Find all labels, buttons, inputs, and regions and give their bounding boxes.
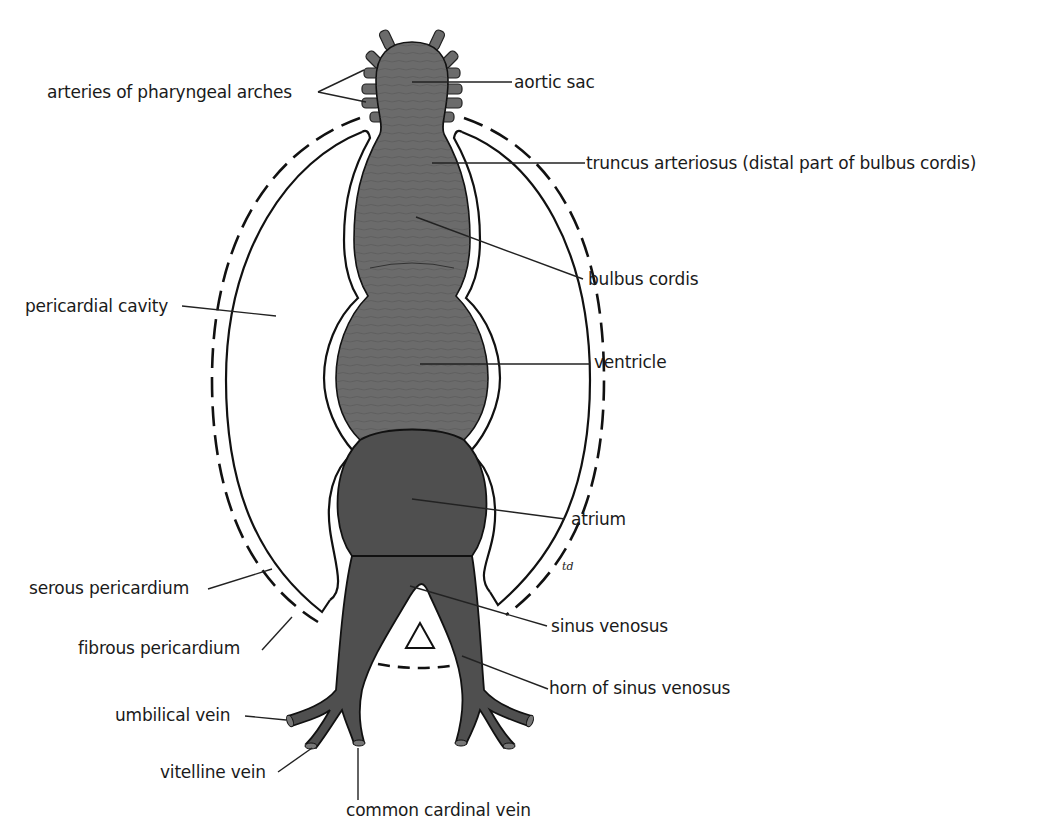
artist-signature: td	[562, 560, 573, 573]
label-common-cardinal-vein: common cardinal vein	[346, 800, 531, 820]
label-aortic-sac: aortic sac	[514, 72, 595, 92]
label-bulbus-cordis: bulbus cordis	[588, 269, 698, 289]
label-sinus-venosus: sinus venosus	[551, 616, 668, 636]
label-atrium: atrium	[571, 509, 626, 529]
sinus-venosus-region	[285, 556, 535, 749]
label-fibrous-pericardium: fibrous pericardium	[78, 638, 240, 658]
label-horn-of-sinus-venosus: horn of sinus venosus	[549, 678, 730, 698]
label-ventricle: ventricle	[594, 352, 666, 372]
label-serous-pericardium: serous pericardium	[29, 578, 189, 598]
label-pericardial-cavity: pericardial cavity	[25, 296, 168, 316]
heart-tube-upper	[336, 42, 488, 440]
label-vitelline-vein: vitelline vein	[160, 762, 266, 782]
atrium-region	[338, 430, 487, 557]
label-truncus-arteriosus: truncus arteriosus (distal part of bulbu…	[586, 153, 976, 173]
label-arteries-of-pharyngeal-arches: arteries of pharyngeal arches	[47, 82, 292, 102]
label-umbilical-vein: umbilical vein	[115, 705, 230, 725]
